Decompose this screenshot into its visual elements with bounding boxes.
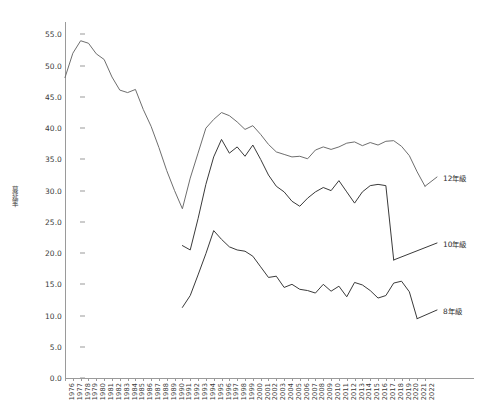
series-label-1: 12年級 (443, 172, 466, 183)
series-leader-line-2 (394, 243, 437, 260)
series-label-2: 10年級 (443, 238, 466, 249)
series-leader-line-3 (417, 310, 437, 319)
prevalence-line-chart: 蔓延率 0.05.010.015.020.025.030.035.040.045… (0, 0, 481, 417)
series-label-3: 8年級 (443, 305, 462, 316)
plot-area (0, 0, 481, 417)
series-line-3 (182, 231, 417, 319)
series-leader-line-1 (425, 177, 437, 186)
series-line-1 (65, 41, 425, 209)
series-group (65, 41, 437, 319)
series-line-2 (182, 139, 393, 260)
